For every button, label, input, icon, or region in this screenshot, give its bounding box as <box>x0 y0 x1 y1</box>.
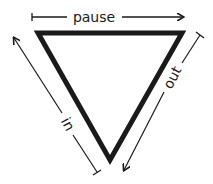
breathing-triangle-diagram: pause out in <box>0 0 213 184</box>
triangle-shape <box>38 33 182 160</box>
out-arrow: out <box>124 32 204 170</box>
in-label: in <box>58 115 78 134</box>
in-arrow: in <box>14 38 101 175</box>
pause-label: pause <box>73 9 115 25</box>
pause-arrow: pause <box>32 9 183 25</box>
